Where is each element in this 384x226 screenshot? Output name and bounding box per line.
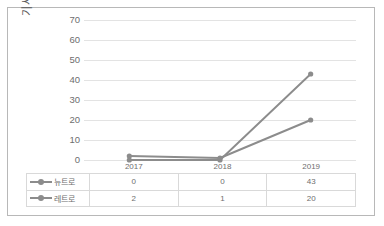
y-axis-tick-label: 30 [52, 95, 80, 105]
data-point-marker [308, 71, 313, 76]
y-axis-tick-label: 20 [52, 115, 80, 125]
table-corner-cell [27, 160, 90, 174]
table-cell: 2 [90, 190, 179, 206]
plot-area [84, 20, 356, 160]
table-cell: 0 [90, 174, 179, 190]
y-axis-tick-label: 70 [52, 15, 80, 25]
chart-figure: 기사 건수 010203040506070 201720182019뉴트로004… [0, 0, 384, 226]
legend-marker-icon [30, 194, 52, 202]
table-column-header: 2018 [178, 160, 267, 174]
table-cell: 1 [178, 190, 267, 206]
series-line [129, 74, 310, 160]
table-row: 뉴트로0043 [27, 174, 356, 190]
y-axis-tick-label: 10 [52, 135, 80, 145]
y-axis-tick-label: 50 [52, 55, 80, 65]
y-axis-tick-labels: 010203040506070 [50, 20, 80, 160]
table-cell: 43 [267, 174, 356, 190]
y-axis-tick-label: 60 [52, 35, 80, 45]
legend-entry: 뉴트로 [27, 174, 90, 190]
y-axis-tick-label: 40 [52, 75, 80, 85]
series-lines [84, 20, 356, 160]
chart-data-table: 201720182019뉴트로0043레트로2120 [26, 160, 356, 207]
table-cell: 0 [178, 174, 267, 190]
table-column-header: 2017 [90, 160, 179, 174]
data-point-marker [308, 117, 313, 122]
y-axis-title: 기사 건수 [18, 0, 36, 48]
legend-label: 뉴트로 [54, 176, 75, 187]
legend-label: 레트로 [54, 193, 75, 204]
table-cell: 20 [267, 190, 356, 206]
legend-entry: 레트로 [27, 190, 90, 206]
table-column-header: 2019 [267, 160, 356, 174]
table-header-row: 201720182019 [27, 160, 356, 174]
series-line [129, 120, 310, 158]
data-point-marker [127, 153, 132, 158]
table-row: 레트로2120 [27, 190, 356, 206]
legend-marker-icon [30, 178, 52, 186]
